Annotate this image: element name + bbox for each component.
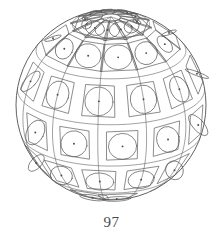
figure-caption: 97	[0, 213, 223, 231]
tile-center-dot	[57, 94, 59, 96]
tile-square	[60, 126, 89, 159]
tile-center-dot	[117, 56, 119, 58]
tile-center-dot	[120, 28, 122, 30]
tile-square	[45, 160, 79, 187]
tile-center-dot	[122, 145, 124, 147]
tile-center-dot	[140, 179, 142, 181]
sphere-tiles	[18, 8, 211, 202]
tile-center-dot	[167, 139, 169, 141]
tile-center-dot	[197, 124, 199, 126]
tile-center-dot	[116, 198, 118, 200]
tile-center-dot	[60, 175, 62, 177]
tile-center-dot	[178, 88, 180, 90]
tile-square	[21, 62, 44, 101]
tile-center-dot	[63, 48, 65, 50]
tile-center-dot	[145, 52, 147, 54]
tile-center-dot	[136, 21, 138, 23]
tile-center-dot	[131, 25, 133, 27]
tile-center-dot	[143, 98, 145, 100]
tile-center-dot	[52, 37, 54, 39]
tile-center-dot	[98, 100, 100, 102]
sphere-diagram	[0, 0, 223, 239]
tile-center-dot	[91, 197, 93, 199]
figure-97: 97	[0, 0, 223, 239]
tile-center-dot	[99, 181, 101, 183]
tile-center-dot	[174, 169, 176, 171]
tile-square	[157, 154, 189, 184]
tile-center-dot	[30, 80, 32, 82]
tile-center-dot	[87, 55, 89, 57]
tile-center-dot	[73, 143, 75, 145]
tile-center-dot	[196, 73, 198, 75]
tile-center-dot	[168, 32, 170, 34]
tile-center-dot	[34, 132, 36, 134]
tile-center-dot	[164, 43, 166, 45]
tile-square	[164, 70, 193, 109]
tile-square	[107, 131, 138, 161]
tile-center-dot	[35, 162, 37, 164]
tile-center-dot	[89, 13, 91, 15]
tile-center-dot	[126, 12, 128, 14]
